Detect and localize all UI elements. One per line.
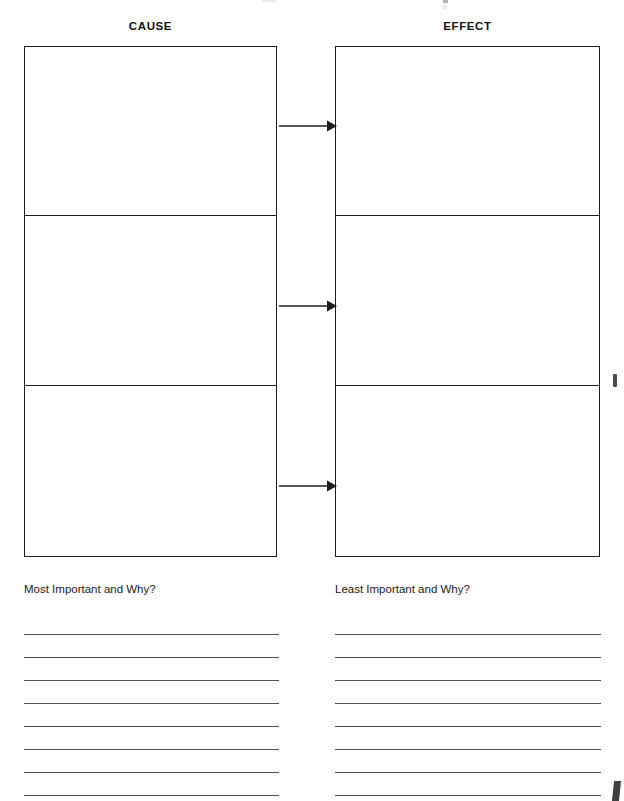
writing-lines-left: [24, 612, 279, 796]
writing-line[interactable]: [24, 635, 279, 658]
scan-artifact-bottom-corner: [612, 781, 621, 801]
writing-line[interactable]: [24, 704, 279, 727]
writing-line[interactable]: [24, 612, 279, 635]
effect-box: [335, 46, 600, 557]
cause-cell-3[interactable]: [25, 386, 276, 556]
writing-line[interactable]: [335, 658, 601, 681]
writing-lines-right: [335, 612, 601, 796]
writing-line[interactable]: [335, 727, 601, 750]
scan-artifact-top-left: [262, 0, 276, 2]
worksheet-page: CAUSE EFFECT Most Important and Why? Lea…: [0, 0, 624, 801]
effect-cell-3[interactable]: [336, 386, 599, 556]
prompt-least-important: Least Important and Why?: [335, 583, 470, 595]
writing-line[interactable]: [335, 750, 601, 773]
column-header-cause: CAUSE: [24, 20, 277, 32]
prompt-most-important: Most Important and Why?: [24, 583, 156, 595]
writing-line[interactable]: [335, 612, 601, 635]
writing-line[interactable]: [24, 681, 279, 704]
arrow-right-icon: [279, 478, 337, 494]
effect-cell-1[interactable]: [336, 47, 599, 216]
scan-artifact-top-right: [443, 0, 448, 3]
scan-artifact-top-right-faint: [443, 5, 447, 9]
writing-line[interactable]: [24, 727, 279, 750]
cause-box: [24, 46, 277, 557]
writing-line[interactable]: [24, 750, 279, 773]
cause-cell-2[interactable]: [25, 216, 276, 386]
scan-artifact-right-edge: [613, 374, 617, 387]
writing-line[interactable]: [335, 704, 601, 727]
writing-line[interactable]: [24, 773, 279, 796]
effect-cell-2[interactable]: [336, 216, 599, 386]
column-header-effect: EFFECT: [335, 20, 600, 32]
cause-cell-1[interactable]: [25, 47, 276, 216]
writing-line[interactable]: [335, 681, 601, 704]
arrow-right-icon: [279, 118, 337, 134]
writing-line[interactable]: [24, 658, 279, 681]
writing-line[interactable]: [335, 773, 601, 796]
arrow-right-icon: [279, 298, 337, 314]
writing-line[interactable]: [335, 635, 601, 658]
